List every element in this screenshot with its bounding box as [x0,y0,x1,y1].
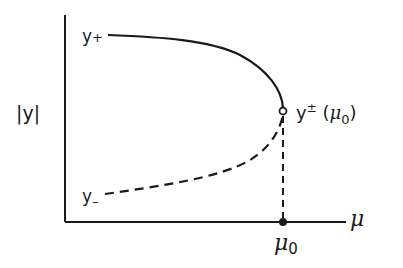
x-axis-label: μ [350,208,364,230]
turning-point-superscript: ± [307,101,317,115]
turning-point-symbol: y [296,102,307,123]
turning-point-label: y± (μ0) [296,104,357,122]
mu0-tick-label: μ0 [274,232,298,254]
upper-branch-symbol: y [82,26,92,46]
lower-branch-label: y– [82,188,99,205]
mu0-subscript: 0 [288,240,298,258]
lower-branch-dashed [105,115,283,194]
upper-branch-solid [108,35,283,108]
mu0-symbol: μ [274,230,288,255]
y-axis-label-text: |y| [16,102,40,124]
lower-branch-subscript: – [92,194,99,209]
x-axis-label-text: μ [350,206,364,231]
lower-branch-symbol: y [82,186,92,206]
turning-point-arg-symbol: μ [329,102,341,123]
mu0-axis-marker [279,218,287,226]
upper-branch-label: y+ [82,28,103,45]
turning-point-marker [280,108,287,115]
close-paren: ) [349,102,356,123]
bifurcation-diagram [0,0,403,268]
upper-branch-subscript: + [92,30,103,45]
turning-point-arg-subscript: 0 [341,112,349,127]
y-axis-label: |y| [16,104,40,123]
